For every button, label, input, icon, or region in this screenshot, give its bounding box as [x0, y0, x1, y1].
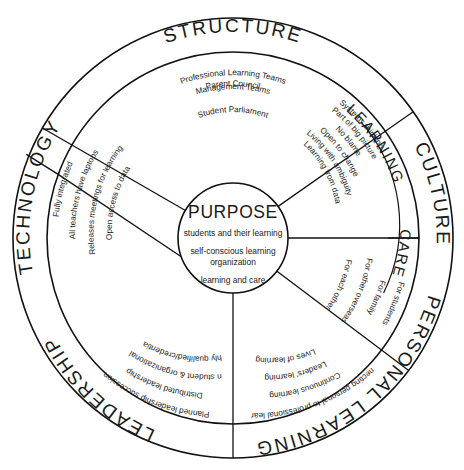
purpose-wheel-diagram: STRUCTURE CULTURE PERSONAL LEARNING LEAD… [0, 0, 464, 470]
purpose-line-1: students and their learning [184, 228, 283, 238]
item-text: For each other [324, 259, 353, 312]
purpose-line-4: learning and care [201, 275, 266, 285]
sector-item: For each other [324, 259, 353, 312]
wheel-svg: STRUCTURE CULTURE PERSONAL LEARNING LEAD… [0, 0, 464, 470]
sector-item: Student Parliament [197, 105, 270, 120]
sector-item: Open access to data [105, 164, 132, 240]
sector-item: For family [365, 279, 388, 317]
item-text: Open access to data [105, 164, 132, 240]
band-label-care: CARE [389, 229, 414, 280]
outer-label-culture-text: CULTURE [411, 139, 454, 247]
purpose-line-2: self-conscious learning [190, 246, 276, 256]
item-text: Student Parliament [197, 105, 270, 120]
purpose-title: PURPOSE [188, 202, 278, 222]
outer-label-structure-text: STRUCTURE [161, 15, 306, 47]
outer-label-structure: STRUCTURE [161, 15, 306, 47]
outer-label-leadership: LEADERSHIP [39, 333, 157, 446]
outer-label-culture: CULTURE [411, 139, 454, 247]
divider-structure-culture-outer [385, 112, 413, 132]
outer-label-leadership-text: LEADERSHIP [39, 333, 157, 446]
item-text: For family [365, 279, 388, 317]
purpose-line-3: organization [210, 257, 256, 267]
sector-item: Lives of learning [254, 347, 316, 365]
band-label-care-text: CARE [389, 229, 414, 280]
item-text: Lives of learning [254, 347, 316, 365]
